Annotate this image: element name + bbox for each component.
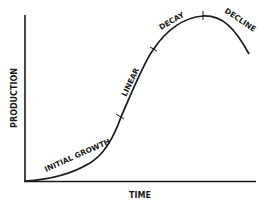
production-chart: INITIAL GROWTH LINEAR DECAY DECLINE TIME… (0, 0, 266, 207)
y-axis-title: PRODUCTION (10, 68, 19, 128)
x-axis-title: TIME (129, 191, 151, 200)
label-initial-growth: INITIAL GROWTH (43, 137, 111, 174)
production-curve (25, 16, 249, 181)
label-decline: DECLINE (223, 6, 258, 33)
